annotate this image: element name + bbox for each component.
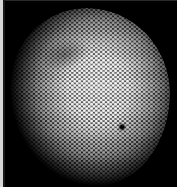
atomic-lattice <box>10 8 170 186</box>
top-border-line <box>5 0 177 1</box>
lattice-defect-dot <box>120 125 124 129</box>
micrograph-frame <box>0 0 177 187</box>
left-border-shadow <box>3 0 5 187</box>
